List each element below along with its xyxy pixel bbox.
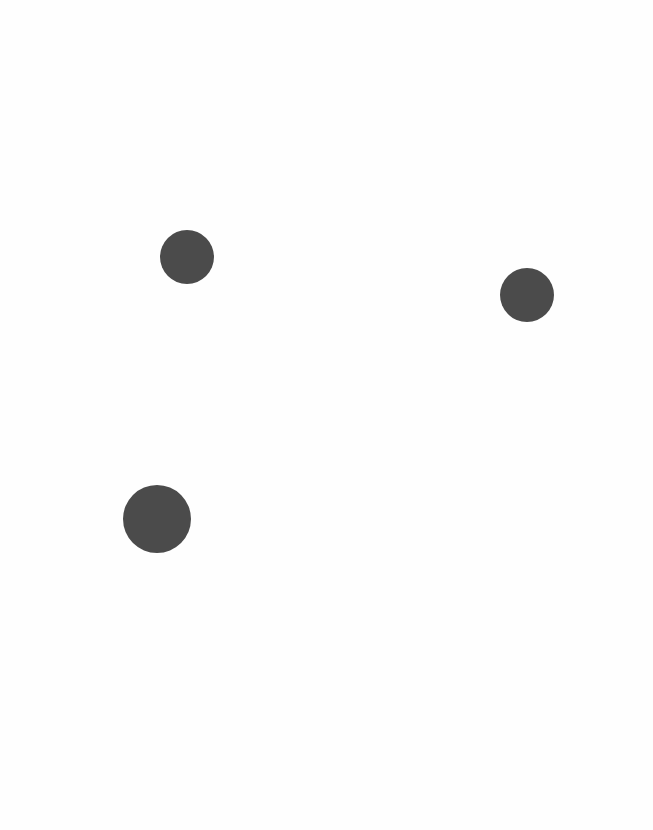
gray-circle-top-left [160,230,214,284]
blank-canvas [0,0,653,830]
gray-circle-right [500,268,554,322]
gray-circle-bottom-left [123,485,191,553]
